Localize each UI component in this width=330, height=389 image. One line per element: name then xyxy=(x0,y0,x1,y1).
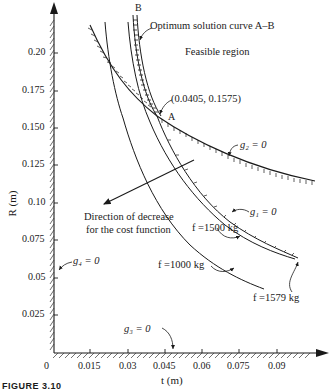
f1000-contour xyxy=(105,22,264,289)
feasible-region-label: Feasible region xyxy=(185,47,249,58)
direction-label-line2: for the cost function xyxy=(86,225,171,236)
y-tick-label: 0.20 xyxy=(28,47,46,57)
x-tick-label: 0.015 xyxy=(78,361,101,371)
y-tick-label: 0.10 xyxy=(28,197,46,207)
optimum-curve-label: Optimum solution curve A–B xyxy=(150,21,275,32)
point-a-label: A xyxy=(168,112,175,122)
g3-label: g₃ = 0 xyxy=(124,324,151,335)
point-b-label: B xyxy=(135,3,142,13)
x-axis-arrow-icon xyxy=(316,349,329,357)
point-a-coords: (0.0405, 0.1575) xyxy=(171,94,241,105)
y-tick-label: 0.175 xyxy=(22,85,45,95)
x-axis xyxy=(53,349,329,358)
g1-constraint xyxy=(157,116,298,258)
y-tick-label: 0.150 xyxy=(22,122,45,132)
design-plot xyxy=(0,0,330,389)
f1500-label: f =1500 kg xyxy=(192,223,238,234)
direction-arrow xyxy=(104,160,194,204)
x-tick-label: 0.045 xyxy=(153,361,176,371)
x-tick-label: 0.06 xyxy=(193,361,211,371)
y-tick-label: 0.025 xyxy=(22,309,45,319)
y-axis-label: R (m) xyxy=(7,191,18,217)
x-tick-label: 0.09 xyxy=(268,361,286,371)
g3-hatching xyxy=(53,353,310,358)
y-tick-label: 0.05 xyxy=(28,272,46,282)
direction-label-line1: Direction of decrease xyxy=(84,212,174,223)
x-tick-label: 0.03 xyxy=(119,361,137,371)
g1-label: g₁ = 0 xyxy=(250,207,277,218)
x-ticks xyxy=(90,349,277,353)
figure-caption: FIGURE 3.10 xyxy=(2,382,62,389)
y-axis xyxy=(50,2,58,353)
g2-label: g₂ = 0 xyxy=(240,140,267,151)
origin-label: 0 xyxy=(44,361,49,371)
f1000-label: f =1000 kg xyxy=(158,260,204,271)
y-tick-label: 0.125 xyxy=(22,159,45,169)
y-axis-arrow-icon xyxy=(50,2,58,14)
y-tick-label: 0.075 xyxy=(22,234,45,244)
x-axis-label: t (m) xyxy=(161,375,183,386)
f1579-label: f =1579 kg xyxy=(253,293,299,304)
g4-hatching xyxy=(50,20,54,350)
x-tick-label: 0.075 xyxy=(227,361,250,371)
y-ticks xyxy=(54,53,58,315)
g4-label: g₄ = 0 xyxy=(73,256,100,267)
